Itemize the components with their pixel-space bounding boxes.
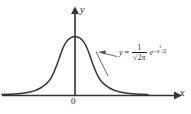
figure-container: y x 0 y = 1 √2π e−x2/2: [0, 0, 191, 114]
y-axis: [71, 7, 79, 96]
origin-label: 0: [71, 97, 76, 106]
fraction-denominator: √2π: [132, 53, 147, 61]
equation-leader-line: [96, 50, 117, 76]
pi-symbol: π: [141, 53, 145, 62]
equation-annotation: y = 1 √2π e−x2/2: [119, 44, 166, 61]
exponent-expression: −x2/2: [153, 47, 166, 54]
radicand: 2π: [137, 52, 146, 62]
equation-lhs: y: [119, 49, 123, 57]
exponent-divisor: 2: [163, 48, 166, 54]
y-axis-label: y: [80, 5, 84, 15]
exponent-power: 2: [159, 44, 161, 49]
fraction-numerator: 1: [136, 44, 144, 52]
x-axis-label: x: [180, 88, 184, 98]
equation-equals: =: [125, 49, 130, 57]
y-axis-arrowhead: [71, 7, 79, 15]
equation-fraction: 1 √2π: [132, 44, 147, 61]
